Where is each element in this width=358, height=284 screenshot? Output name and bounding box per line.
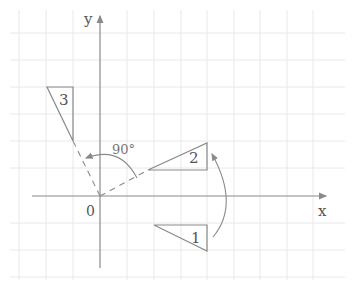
angle-arc-arrow — [86, 154, 137, 178]
origin-label: 0 — [86, 204, 95, 218]
grid — [10, 10, 345, 280]
coordinate-diagram — [0, 0, 358, 284]
y-axis-label: y — [84, 12, 92, 27]
x-axis-label: x — [318, 204, 326, 219]
dashed-radius-to-2 — [100, 170, 148, 196]
triangle-2-label: 2 — [189, 151, 199, 166]
triangle-1-label: 1 — [191, 231, 201, 246]
triangle-3-label: 3 — [59, 93, 69, 108]
angle-label: 90° — [112, 143, 135, 156]
